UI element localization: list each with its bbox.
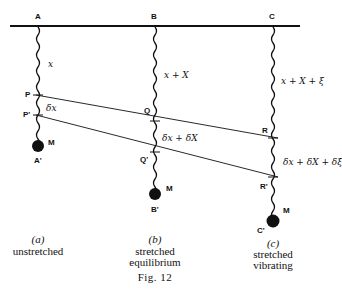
spring-diagram: A B C x P P' δx M A' x + X Q Q' δx + δX … [0,0,342,296]
bottom-label-a: A' [34,156,42,165]
bottom-label-b: B' [151,205,159,214]
spring-c [272,27,275,227]
segment-label-c: δx + δX + δξ [283,157,342,167]
mass-label-a: M [48,138,55,147]
line-Pp-Qp-Rp [36,115,278,177]
spring-b [154,27,157,193]
panel-desc-a-1: unstretched [13,245,64,257]
length-label-c: x + X + ξ [281,76,325,86]
panel-desc-b-2: equilibrium [129,256,181,268]
length-label-b: x + X [164,70,189,80]
point-R: R [262,126,268,135]
length-label-a: x [48,59,53,69]
mass-label-b: M [166,184,173,193]
label-A: A [35,12,41,21]
point-Rp: R' [260,182,268,191]
point-Qp: Q' [140,155,148,164]
mass-a [32,140,44,152]
point-P: P [25,90,31,99]
segment-label-b: δx + δX [162,133,198,143]
point-Q: Q [144,106,150,115]
spring-a [37,27,40,145]
mass-label-c: M [283,206,290,215]
label-C: C [269,12,275,21]
bottom-label-c: C' [257,226,265,235]
point-Pp: P' [23,110,30,119]
line-P-Q-R [36,95,278,138]
panel-desc-c-2: vibrating [253,259,293,271]
label-B: B [151,12,157,21]
segment-label-a: δx [46,103,57,113]
figure-caption: Fig. 12 [138,271,173,283]
mass-b [149,188,161,200]
mass-c [267,215,280,228]
